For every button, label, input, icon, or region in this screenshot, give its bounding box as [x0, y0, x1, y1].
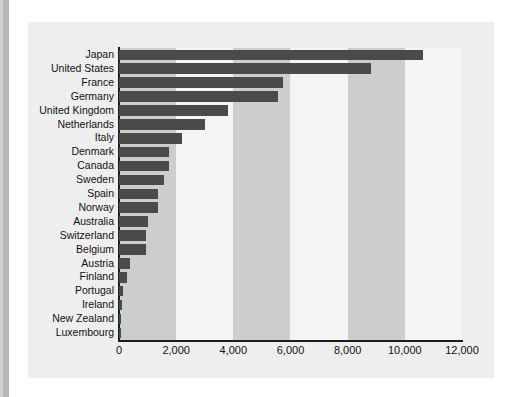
x-tick-label: 4,000 — [220, 344, 248, 356]
category-labels-layer: JapanUnited StatesFranceGermanyUnited Ki… — [28, 48, 119, 340]
category-label: Switzerland — [28, 229, 114, 243]
category-label: Sweden — [28, 173, 114, 187]
category-label: Netherlands — [28, 118, 114, 132]
category-label: Portugal — [28, 284, 114, 298]
page-edge-strip — [0, 0, 9, 397]
category-label: Belgium — [28, 243, 114, 257]
category-label: Germany — [28, 90, 114, 104]
x-tick-label: 2,000 — [162, 344, 190, 356]
category-label: Norway — [28, 201, 114, 215]
category-label: Spain — [28, 187, 114, 201]
category-label: New Zealand — [28, 312, 114, 326]
category-label: Italy — [28, 131, 114, 145]
x-tick-label: 0 — [116, 344, 122, 356]
category-label: Japan — [28, 48, 114, 62]
category-label: Australia — [28, 215, 114, 229]
category-label: France — [28, 76, 114, 90]
category-label: Canada — [28, 159, 114, 173]
x-tick-label: 12,000 — [445, 344, 479, 356]
category-label: Austria — [28, 257, 114, 271]
x-tick-label: 10,000 — [388, 344, 422, 356]
category-label: United Kingdom — [28, 104, 114, 118]
chart-figure-panel: JapanUnited StatesFranceGermanyUnited Ki… — [28, 22, 494, 378]
x-axis-tick-labels: 02,0004,0006,0008,00010,00012,000 — [119, 22, 462, 378]
x-tick-label: 6,000 — [277, 344, 305, 356]
category-label: United States — [28, 62, 114, 76]
category-label: Denmark — [28, 145, 114, 159]
category-label: Luxembourg — [28, 326, 114, 340]
x-tick-label: 8,000 — [334, 344, 362, 356]
page-edge-strip-inner — [0, 0, 3, 397]
category-label: Ireland — [28, 298, 114, 312]
category-label: Finland — [28, 270, 114, 284]
